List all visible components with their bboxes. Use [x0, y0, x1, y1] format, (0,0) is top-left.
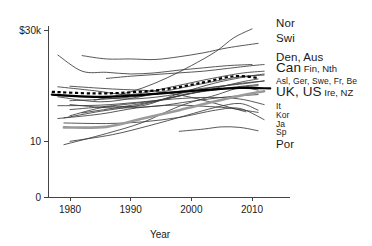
legend-row: Por — [276, 135, 294, 151]
series-line-por — [179, 127, 258, 132]
series-line-den — [58, 55, 252, 74]
legend-row: UK, US Ire, NZ — [276, 83, 353, 99]
legend-label-secondary: Ire, NZ — [322, 87, 354, 98]
legend-row: Nor — [276, 14, 295, 30]
legend-label-primary: Swi — [276, 32, 295, 44]
legend-label-primary: UK, US — [276, 84, 322, 99]
x-tick-label: 1990 — [120, 204, 143, 215]
series-line-can — [58, 71, 264, 94]
x-tick-label: 1980 — [59, 204, 82, 215]
chart-container: 010$30k1980199020002010 Year NorSwiDen, … — [0, 0, 372, 246]
y-tick-label: 10 — [30, 136, 42, 147]
chart-legend: NorSwiDen, AusCan Fin, NthAsl, Ger, Swe,… — [276, 0, 372, 246]
y-tick-label: $30k — [19, 25, 42, 36]
series-line-fin — [70, 74, 264, 116]
series-line-it — [58, 97, 264, 105]
legend-label-primary: Nor — [276, 17, 295, 29]
x-axis-title: Year — [150, 229, 171, 240]
legend-row: Swi — [276, 29, 295, 45]
x-tick-label: 2000 — [180, 204, 203, 215]
series-line-swi — [82, 43, 258, 59]
x-tick-label: 2010 — [241, 204, 264, 215]
series-group — [52, 29, 270, 145]
legend-label-primary: Por — [276, 138, 294, 150]
series-line-gre — [64, 108, 264, 124]
y-tick-label: 0 — [35, 192, 41, 203]
